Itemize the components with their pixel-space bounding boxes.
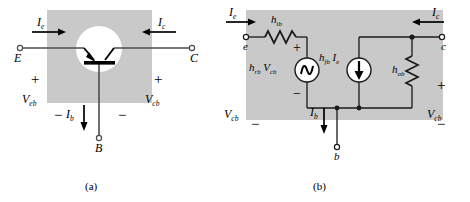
voltage-label-veb-a-sub: eb <box>29 99 36 108</box>
component-label-hfb-ie: hfb Ie <box>319 52 339 63</box>
current-arrow-ib-head <box>81 122 88 131</box>
voltage-label-vcb-a-sub: cb <box>152 99 159 108</box>
current-label-ib-b-sub: b <box>314 112 318 121</box>
voltage-label-veb-a: Veb <box>22 93 36 105</box>
polarity-minus-source-bottom: − <box>293 87 301 101</box>
node-isrc-bottom-junction <box>357 106 362 111</box>
polarity-minus-veb-a: − <box>54 108 62 123</box>
voltage-label-vcb-a: Vcb <box>145 93 159 105</box>
current-label-ic-b-sub: c <box>436 12 439 21</box>
terminal-label-e-b: e <box>243 41 248 52</box>
polarity-minus-vcb-left-b: − <box>251 117 259 132</box>
component-label-hrb-vcb: hrb Vcb <box>249 62 276 73</box>
voltage-label-vcb-left-b: Vcb <box>224 108 238 120</box>
terminal-node-C[interactable] <box>189 45 194 50</box>
polarity-plus-vcb-a: + <box>154 72 162 87</box>
caption-a: (a) <box>85 180 97 192</box>
polarity-plus-source-top: + <box>293 41 301 55</box>
current-label-ie-a-sub: e <box>41 22 44 31</box>
terminal-label-C: C <box>190 52 198 64</box>
polarity-plus-vcb-right-b: + <box>437 78 445 93</box>
component-label-ie-sub: e <box>336 58 339 65</box>
component-label-hib-sub: ib <box>277 20 282 27</box>
component-label-vcb-sub: cb <box>270 68 276 75</box>
current-label-ib-b: Ib <box>310 106 318 118</box>
polarity-plus-veb-a: + <box>31 72 39 87</box>
component-label-hob: hob <box>392 64 404 75</box>
terminal-label-B: B <box>95 142 102 154</box>
figure-container: E C B Ie Ic Ib + − Veb + − Vcb e c b Ie … <box>0 0 470 202</box>
terminal-label-b-b: b <box>334 151 340 162</box>
current-arrow-ib-b-head <box>321 125 328 134</box>
terminal-label-E: E <box>14 52 21 64</box>
current-label-ie-b: Ie <box>229 6 236 18</box>
current-label-ic-a-sub: c <box>162 22 165 31</box>
current-label-ic-a: Ic <box>158 16 165 28</box>
polarity-minus-vcb-a: − <box>118 108 126 123</box>
voltage-label-vcb-right-b: Vcb <box>427 108 441 120</box>
terminal-node-e[interactable] <box>243 34 248 39</box>
voltage-label-vcb-right-b-sub: cb <box>434 114 441 123</box>
terminal-node-B[interactable] <box>96 135 101 140</box>
terminal-node-b[interactable] <box>334 144 339 149</box>
voltage-label-vcb-left-b-sub: cb <box>231 114 238 123</box>
terminal-node-c[interactable] <box>439 34 444 39</box>
terminal-node-E[interactable] <box>17 45 22 50</box>
transistor-base-bar <box>84 61 115 65</box>
component-label-hib: hib <box>271 14 282 25</box>
current-label-ic-b: Ic <box>432 6 439 18</box>
current-label-ib-a: Ib <box>66 108 74 120</box>
terminal-label-c-b: c <box>441 41 446 52</box>
caption-b: (b) <box>313 180 326 192</box>
component-label-hob-sub: ob <box>398 70 405 77</box>
current-label-ib-a-sub: b <box>70 114 74 123</box>
current-label-ie-a: Ie <box>37 16 44 28</box>
circuit-diagram-svg <box>0 0 470 202</box>
current-label-ie-b-sub: e <box>233 12 236 21</box>
